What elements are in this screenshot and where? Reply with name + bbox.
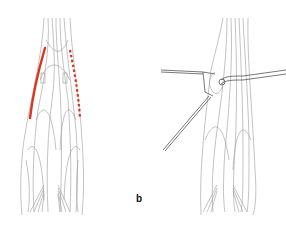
panel-label-b: b: [136, 193, 142, 204]
panel-b: b: [143, 0, 286, 227]
forearm-illustration-b: [143, 0, 286, 227]
forearm-illustration-a: [0, 0, 143, 227]
retractor-left-lower: [163, 96, 211, 151]
panel-a: [0, 0, 143, 227]
retractor-left-upper: [161, 70, 215, 96]
retractor-right: [219, 70, 286, 85]
incision-line-dashed: [70, 50, 80, 118]
